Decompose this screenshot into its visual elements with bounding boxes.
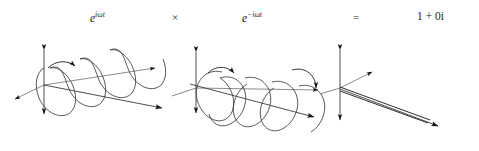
right-collapsed-line-upper bbox=[340, 87, 430, 120]
diagram-left-circular-helix bbox=[15, 49, 166, 116]
right-collapsed-line-lower bbox=[340, 91, 428, 123]
right-propagation-axis bbox=[340, 89, 438, 126]
mid-depth-axis-far bbox=[196, 88, 318, 90]
left-helix-curve bbox=[36, 49, 165, 116]
mid-helix-curve bbox=[196, 71, 325, 132]
left-depth-axis bbox=[15, 85, 44, 99]
diagram-linear-degenerate bbox=[320, 50, 438, 126]
left-propagation-axis bbox=[44, 85, 162, 108]
right-depth-axis-far bbox=[340, 72, 372, 88]
polarization-diagram bbox=[0, 0, 479, 151]
diagram-right-circular-helix bbox=[172, 52, 325, 132]
right-depth-axis-near bbox=[320, 88, 340, 94]
mid-depth-axis bbox=[172, 88, 196, 96]
